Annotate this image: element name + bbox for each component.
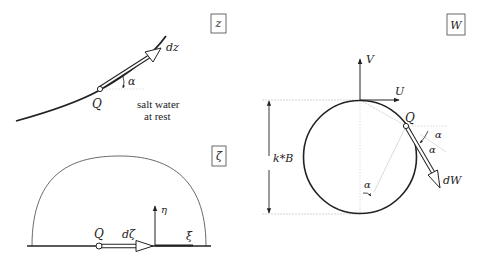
z-point-q-marker bbox=[97, 86, 102, 91]
dz-label: dz bbox=[166, 41, 179, 54]
v-axis-label: V bbox=[366, 53, 375, 66]
w-angle-alpha-3-label: α bbox=[364, 179, 371, 190]
xi-axis-label: ξ bbox=[186, 230, 193, 243]
eta-axis-label: η bbox=[161, 204, 167, 215]
u-axis-label: U bbox=[395, 85, 405, 98]
conformal-mapping-diagram: z Q dz α salt water at rest ζ η ξ bbox=[0, 0, 481, 266]
w-angle-arc-3-icon bbox=[363, 193, 371, 196]
w-radius-guide bbox=[360, 100, 406, 126]
zeta-point-q-marker bbox=[96, 243, 102, 249]
w-point-q-label: Q bbox=[405, 111, 415, 125]
w-angle-alpha-2-label: α bbox=[429, 144, 436, 155]
z-angle-arc-icon bbox=[123, 76, 124, 88]
salt-water-label-line1: salt water bbox=[137, 98, 180, 110]
w-angle-alpha-1-label: α bbox=[435, 129, 442, 140]
dzeta-vector-arrow bbox=[100, 241, 153, 252]
kb-dimension-label: k*B bbox=[273, 152, 293, 165]
hodograph-w-plane-panel: W V U k*B Q dW α α α bbox=[262, 14, 465, 214]
zeta-point-q-label: Q bbox=[94, 227, 104, 241]
w-chord-guide bbox=[374, 126, 406, 192]
z-plane-panel: z Q dz α salt water at rest bbox=[16, 14, 226, 122]
zeta-panel-label: ζ bbox=[216, 150, 223, 163]
salt-water-label-line2: at rest bbox=[144, 110, 171, 122]
zeta-plane-panel: ζ η ξ Q dζ bbox=[27, 146, 226, 252]
dzeta-label: dζ bbox=[122, 228, 136, 241]
z-angle-alpha-label: α bbox=[128, 75, 136, 88]
z-point-q-label: Q bbox=[92, 97, 102, 111]
dw-label: dW bbox=[443, 174, 463, 187]
z-panel-label: z bbox=[215, 17, 222, 30]
zeta-semicircle-boundary bbox=[32, 156, 206, 246]
w-panel-label: W bbox=[450, 19, 463, 32]
